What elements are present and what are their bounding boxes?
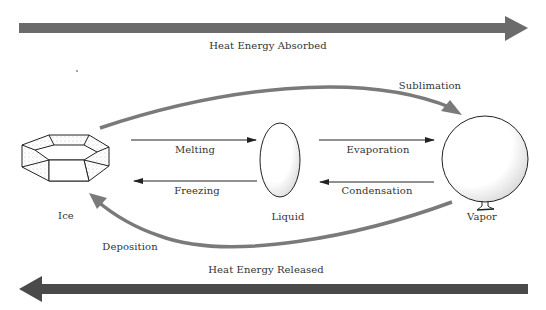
hexagonal-prism-icon: [22, 135, 109, 181]
deposition-label: Deposition: [102, 241, 157, 252]
balloon-icon: [442, 116, 528, 210]
sublimation-arrow: [100, 87, 462, 128]
liquid-label: Liquid: [272, 211, 305, 222]
ice-label: Ice: [58, 210, 74, 221]
droplet-ellipse-icon: [260, 123, 300, 197]
vapor-label: Vapor: [467, 211, 497, 222]
heat-absorbed-label: Heat Energy Absorbed: [209, 40, 327, 51]
condensation-label: Condensation: [342, 185, 413, 196]
evaporation-label: Evaporation: [347, 144, 410, 155]
heat-absorbed-arrow: [19, 16, 528, 41]
sublimation-label: Sublimation: [399, 80, 461, 91]
deposition-arrow: [89, 193, 452, 247]
stray-dot: [76, 70, 78, 72]
freezing-label: Freezing: [174, 185, 220, 196]
heat-released-arrow: [19, 276, 528, 302]
melting-label: Melting: [175, 144, 215, 155]
heat-released-label: Heat Energy Released: [208, 264, 323, 275]
